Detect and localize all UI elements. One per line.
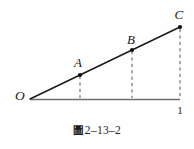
figure-caption: 圖2–13–2 [0,124,194,138]
figure-container: O A B C 1 圖2–13–2 [0,0,194,149]
point-marker-a [78,73,82,77]
ray-from-origin-to-c [30,27,180,99]
label-origin-o: O [15,89,25,103]
label-point-a: A [74,56,82,69]
caption-figure-number: 2–13–2 [85,124,121,136]
label-point-c: C [175,8,184,21]
point-marker-c [178,25,182,29]
caption-figure-marker: 圖 [73,124,83,136]
label-point-b: B [127,33,135,46]
x-axis-tick-label-one: 1 [177,105,183,116]
point-marker-b [130,48,134,52]
